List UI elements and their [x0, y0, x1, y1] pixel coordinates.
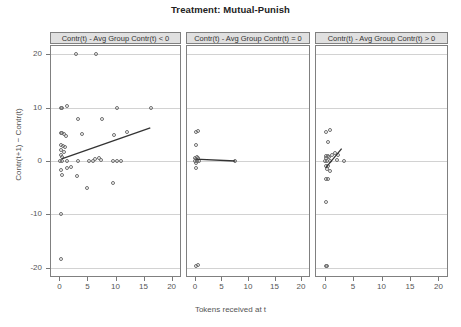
x-tick-label: 0: [317, 282, 333, 291]
x-tick-label: 15: [402, 282, 418, 291]
regression-line: [51, 46, 180, 276]
x-tick-mark: [410, 277, 411, 281]
x-tick-mark: [59, 277, 60, 281]
x-tick-label: 5: [345, 282, 361, 291]
x-tick-mark: [325, 277, 326, 281]
x-tick-label: 10: [374, 282, 390, 291]
x-tick-mark: [116, 277, 117, 281]
x-tick-label: 10: [240, 282, 256, 291]
x-tick-mark: [353, 277, 354, 281]
page-title: Treatment: Mutual-Punish: [0, 4, 461, 15]
x-tick-label: 15: [267, 282, 283, 291]
facet-panel: Contr(t) - Avg Group Contr(t) = 0: [186, 32, 310, 277]
facet-panel: Contr(t) - Avg Group Contr(t) > 0: [315, 32, 448, 277]
x-tick-label: 10: [108, 282, 124, 291]
x-tick-mark: [248, 277, 249, 281]
x-tick-mark: [275, 277, 276, 281]
y-tick-label: 0: [18, 156, 42, 165]
y-axis-label: Contr(t+1) − Contr(t): [14, 75, 23, 215]
x-tick-label: 20: [293, 282, 309, 291]
x-tick-label: 5: [213, 282, 229, 291]
plot-area: [50, 45, 181, 277]
panel-strip-label: Contr(t) - Avg Group Contr(t) = 0: [186, 32, 310, 44]
plot-area: [315, 45, 448, 277]
y-tick-label: -10: [18, 209, 42, 218]
panel-strip-label: Contr(t) - Avg Group Contr(t) < 0: [50, 32, 181, 44]
panel-strip-label: Contr(t) - Avg Group Contr(t) > 0: [315, 32, 448, 44]
regression-line: [187, 46, 309, 276]
x-tick-label: 15: [136, 282, 152, 291]
x-tick-mark: [195, 277, 196, 281]
x-tick-mark: [438, 277, 439, 281]
x-axis-label: Tokens received at t: [0, 305, 461, 314]
y-tick-label: 10: [18, 103, 42, 112]
scatter-plot-figure: Treatment: Mutual-Punish Contr(t+1) − Co…: [0, 0, 461, 327]
x-tick-label: 5: [79, 282, 95, 291]
x-tick-label: 20: [430, 282, 446, 291]
x-tick-label: 0: [51, 282, 67, 291]
x-tick-label: 0: [187, 282, 203, 291]
plot-area: [186, 45, 310, 277]
y-tick-label: -20: [18, 263, 42, 272]
x-tick-mark: [87, 277, 88, 281]
facet-panel: Contr(t) - Avg Group Contr(t) < 0: [50, 32, 181, 277]
regression-line: [316, 46, 447, 276]
x-tick-mark: [301, 277, 302, 281]
x-tick-mark: [172, 277, 173, 281]
x-tick-mark: [144, 277, 145, 281]
x-tick-label: 20: [164, 282, 180, 291]
y-tick-label: 20: [18, 49, 42, 58]
x-tick-mark: [382, 277, 383, 281]
x-tick-mark: [221, 277, 222, 281]
